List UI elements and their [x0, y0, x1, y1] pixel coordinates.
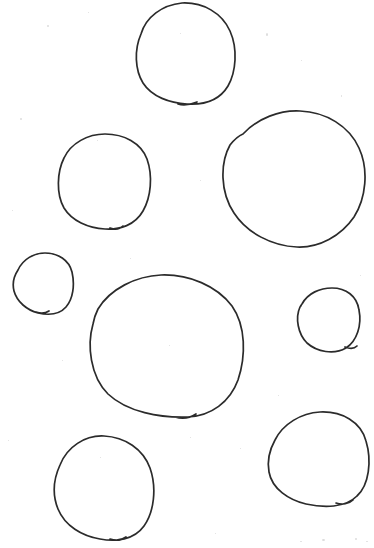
scan-surface	[0, 0, 374, 548]
paper-background	[0, 0, 374, 548]
drawing-canvas	[0, 0, 374, 548]
